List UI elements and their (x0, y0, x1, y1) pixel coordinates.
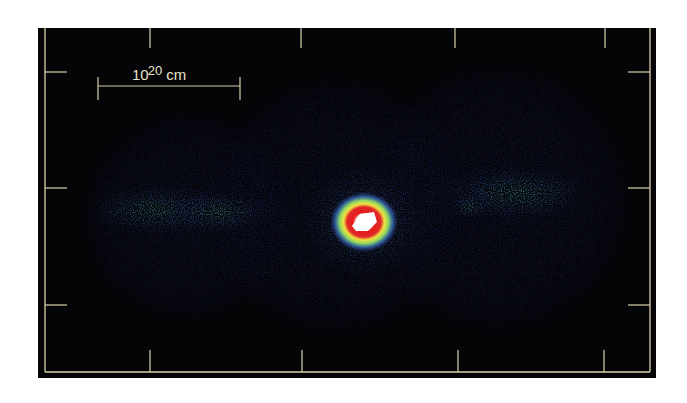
hot-spot (330, 192, 398, 252)
density-map (38, 28, 656, 378)
simulation-figure: 1020 cm (38, 28, 656, 378)
right-knot (450, 194, 490, 218)
scale-exponent: 20 (148, 63, 162, 78)
left-band-2 (163, 190, 273, 234)
scale-base: 10 (132, 66, 149, 83)
scale-bar-label: 1020 cm (132, 63, 186, 83)
scale-unit: cm (166, 66, 186, 83)
